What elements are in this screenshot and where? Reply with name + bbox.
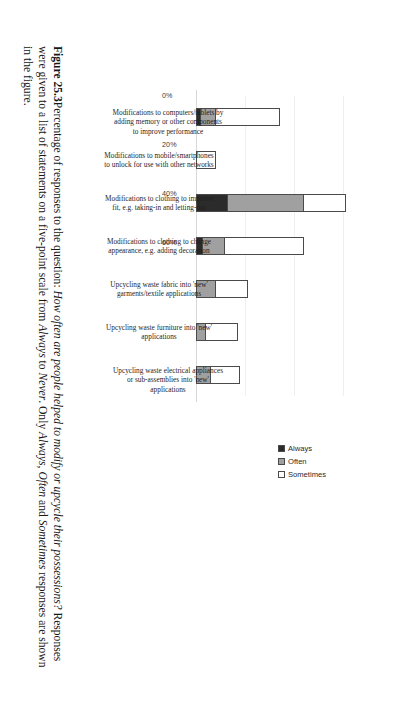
category-label: Modifications to clothing to improve fit… (103, 194, 215, 213)
caption-resp-often: Often (36, 471, 49, 497)
legend-item[interactable]: Sometimes (278, 470, 326, 479)
caption-lead: Percentage of responses to the question: (51, 102, 64, 291)
category-label: Upcycling waste furniture into 'new' app… (103, 323, 215, 342)
gridline (343, 96, 344, 396)
category-label: Upcycling waste fabric into 'new' garmen… (103, 280, 215, 299)
category-label: Modifications to mobile/smartphones to u… (103, 151, 215, 170)
legend-swatch-icon (278, 471, 285, 478)
legend-item[interactable]: Always (278, 444, 326, 453)
legend-items-container: AlwaysOftenSometimes (278, 444, 326, 483)
legend-label: Often (288, 457, 307, 466)
caption-scale-to: Never (36, 373, 49, 401)
y-axis-tick-label: 20% (162, 140, 177, 149)
legend-label: Always (288, 444, 312, 453)
bar-segment-often[interactable] (228, 194, 304, 212)
legend-label: Sometimes (288, 470, 326, 479)
legend-swatch-icon (278, 458, 285, 465)
figure-caption: Figure 25.3Percentage of responses to th… (19, 46, 65, 676)
figure-number-label: Figure 25.3 (51, 46, 64, 102)
figure-chart-area: 0%20%40%60% AlwaysOftenSometimes Modific… (77, 0, 417, 719)
category-label: Modifications to clothing to change appe… (103, 237, 215, 256)
bar-segment-sometimes[interactable] (225, 237, 304, 255)
legend-item[interactable]: Often (278, 457, 326, 466)
figure-caption-block: Figure 25.3Percentage of responses to th… (0, 0, 79, 719)
legend-swatch-icon (278, 445, 285, 452)
caption-resp-sometimes: Sometimes (36, 520, 49, 570)
caption-mid2: to (36, 358, 49, 373)
bar-segment-sometimes[interactable] (304, 194, 346, 212)
rotated-page-container: 0%20%40%60% AlwaysOftenSometimes Modific… (0, 0, 417, 719)
y-axis-tick-label: 0% (162, 91, 173, 100)
bar-segment-sometimes[interactable] (216, 280, 248, 298)
plot-area: 0%20%40%60% (196, 96, 368, 396)
category-label: Modifications to computers/tablets by ad… (112, 108, 224, 136)
caption-question: How often are people helped to modify or… (51, 291, 64, 610)
bar-segment-sometimes[interactable] (216, 108, 280, 126)
category-label: Upcycling waste electrical appliances or… (112, 366, 224, 394)
bar-stack[interactable] (196, 194, 346, 212)
caption-sep2: and (36, 497, 49, 520)
caption-mid3: . Only (36, 400, 49, 432)
caption-resp-always: Always (36, 432, 49, 466)
caption-scale-from: Always (36, 324, 49, 358)
